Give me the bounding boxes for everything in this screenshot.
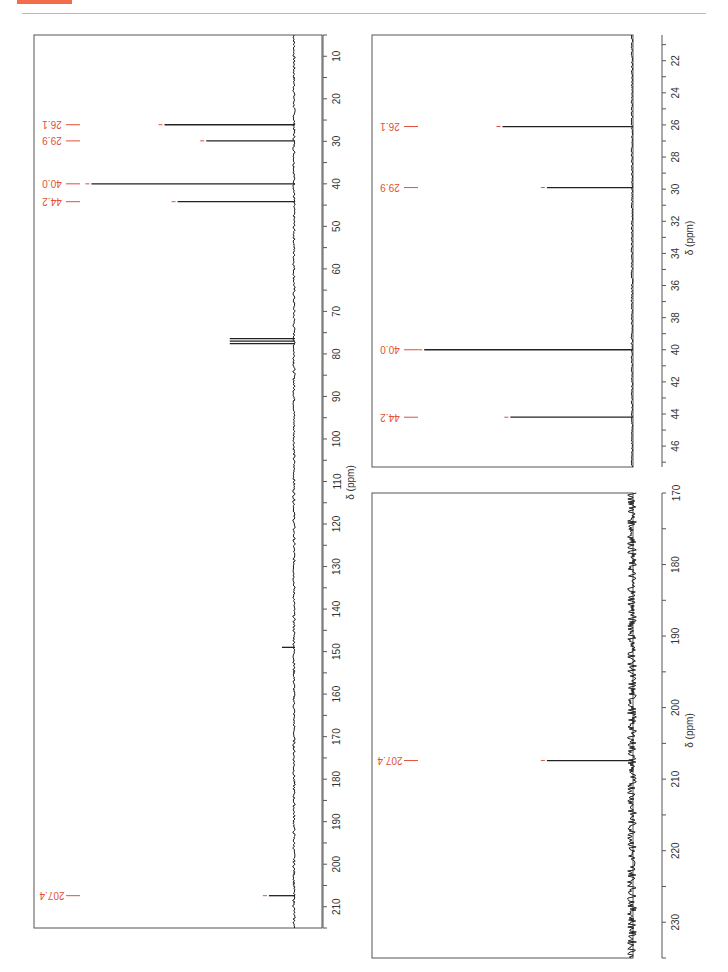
tick-label: 22 [671,55,682,67]
full-spectrum-panel: 26.129.940.044.2207.41020304050607080901… [34,35,356,928]
nmr-spectra-figure: 26.129.940.044.2207.41020304050607080901… [0,0,728,972]
peak-label: 207.4 [377,755,402,766]
tick-label: 28 [671,151,682,163]
tick-label: 180 [332,770,343,787]
tick-label: 170 [332,728,343,745]
peak-label: 40.0 [380,344,400,355]
peak-label: 44.2 [380,412,400,423]
tick-label: 24 [671,87,682,99]
tick-label: 200 [671,699,682,716]
peak-label: 26.1 [42,119,62,130]
tick-label: 34 [671,247,682,259]
tick-label: 20 [332,93,343,105]
tick-label: 230 [671,913,682,930]
tick-label: 46 [671,440,682,452]
tick-label: 130 [332,558,343,575]
tick-label: 26 [671,119,682,131]
tick-label: 220 [671,842,682,859]
axis-title: δ (ppm) [345,465,356,499]
tick-label: 210 [671,770,682,787]
tick-label: 90 [332,390,343,402]
tick-label: 210 [332,898,343,915]
tick-label: 160 [332,685,343,702]
tick-label: 150 [332,643,343,660]
tick-label: 70 [332,305,343,317]
tick-label: 200 [332,855,343,872]
peak-label: 207.4 [39,890,64,901]
tick-label: 60 [332,263,343,275]
tick-label: 140 [332,600,343,617]
tick-label: 110 [332,473,343,489]
tick-label: 40 [332,178,343,190]
tick-label: 32 [671,215,682,227]
axis-title: δ (ppm) [684,221,695,255]
tick-label: 30 [671,183,682,195]
tick-label: 50 [332,220,343,232]
tick-label: 120 [332,515,343,532]
tick-label: 38 [671,312,682,324]
expansion-aliphatic-panel: 26.129.940.044.2222426283032343638404244… [372,35,695,467]
tick-label: 42 [671,376,682,388]
tick-label: 10 [332,50,343,62]
tick-label: 170 [671,484,682,501]
tick-label: 36 [671,280,682,292]
tick-label: 190 [671,627,682,644]
expansion-carbonyl-panel: 207.4170180190200210220230δ (ppm) [372,484,695,958]
tick-label: 190 [332,813,343,830]
peak-label: 44.2 [42,196,62,207]
peak-label: 29.9 [42,135,62,146]
tick-label: 180 [671,556,682,573]
peak-label: 26.1 [380,121,400,132]
tick-label: 80 [332,348,343,360]
axis-title: δ (ppm) [684,713,695,747]
tick-label: 44 [671,408,682,420]
tick-label: 40 [671,344,682,356]
peak-label: 40.0 [42,178,62,189]
tick-label: 30 [332,135,343,147]
tick-label: 100 [332,430,343,447]
peak-label: 29.9 [380,182,400,193]
